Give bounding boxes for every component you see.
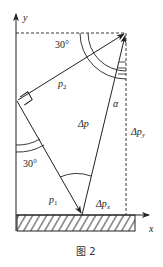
momentum-diagram: y x 30° α 30° p2 p1 Δp Δpy Δpx [0,0,163,267]
delta-py-label: Δpy [130,126,146,139]
top-angle-label: 30° [55,39,69,50]
ground-surface [17,215,135,231]
figure-caption: 图 2 [76,246,96,257]
delta-px-label: Δpx [95,198,111,211]
delta-p-label: Δp [77,118,89,129]
right-angle-marker [20,92,33,106]
alpha-label: α [113,98,119,109]
x-axis-label: x [148,223,154,234]
left-angle-label: 30° [23,158,37,169]
p1-label: p1 [48,194,58,207]
bottom-angle-arc [60,174,91,177]
top-angle-arcs [80,33,126,79]
p2-label: p2 [57,78,67,91]
y-axis-label: y [22,12,28,23]
alpha-arc-ticks [118,62,126,74]
